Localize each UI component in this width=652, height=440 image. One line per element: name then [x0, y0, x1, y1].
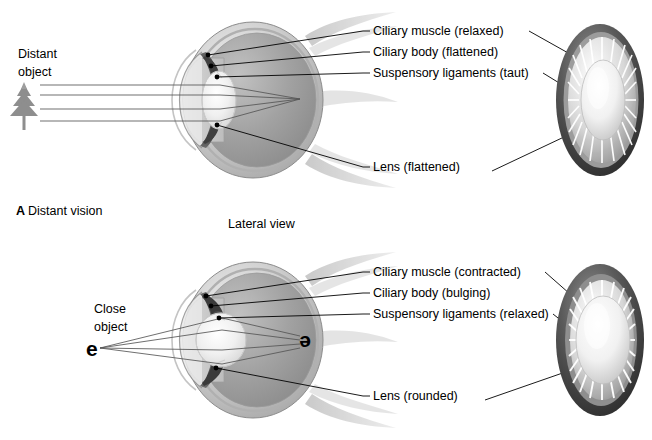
panel-b-close-vision: e e Close object [86, 252, 644, 428]
label-suspensory-ligaments-bottom: Suspensory ligaments (relaxed) [373, 307, 549, 321]
inverted-image-glyph: e [299, 332, 311, 355]
pine-tree-icon [10, 82, 38, 130]
panel-a-letter: A [16, 204, 25, 218]
label-suspensory-ligaments-top: Suspensory ligaments (taut) [373, 66, 529, 80]
distant-object-label-line1: Distant [18, 47, 57, 61]
label-ciliary-body-top: Ciliary body (flattened) [373, 45, 498, 59]
cornea-top [180, 52, 203, 148]
label-lens-top: Lens (flattened) [373, 160, 460, 174]
label-ciliary-body-bottom: Ciliary body (bulging) [373, 286, 490, 300]
close-object-label-line1: Close [94, 302, 126, 316]
panel-a-caption: Distant vision [28, 204, 102, 218]
close-object-label-line2: object [94, 320, 128, 334]
label-ciliary-muscle-bottom: Ciliary muscle (contracted) [373, 265, 521, 279]
anterior-view-bottom [556, 264, 644, 416]
letter-e-glyph: e [86, 337, 98, 360]
distant-object-label-line2: object [18, 65, 52, 79]
lateral-view-caption: Lateral view [228, 217, 296, 231]
svg-text:e: e [299, 332, 311, 355]
panel-a-distant-vision: Distant object [10, 12, 644, 218]
label-ciliary-muscle-top: Ciliary muscle (relaxed) [373, 24, 504, 38]
figure-page: Distant object [0, 0, 652, 440]
anterior-view-top [556, 24, 644, 176]
label-lens-bottom: Lens (rounded) [373, 389, 458, 403]
eye-accommodation-figure: Distant object [0, 0, 652, 440]
